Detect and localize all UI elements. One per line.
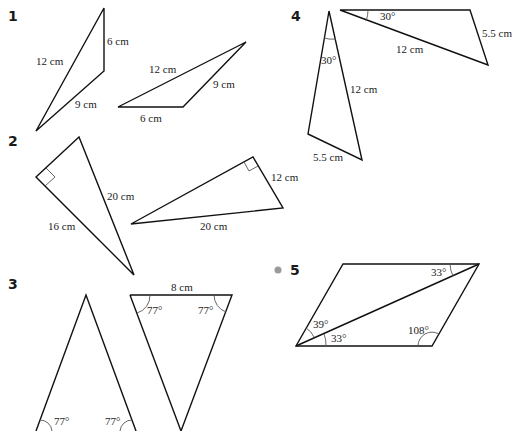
angle-label: 77° (198, 304, 213, 316)
bullet-dot (275, 267, 282, 274)
question-5: 5 33° 39° 33° 108° (275, 262, 480, 346)
side-label: 9 cm (75, 98, 97, 110)
triangle-shape (130, 295, 232, 431)
side-label: 5.5 cm (482, 27, 512, 39)
angle-label: 33° (331, 332, 346, 344)
question-number: 2 (8, 133, 18, 149)
q3-triangle-b: 8 cm 77° 77° (130, 281, 232, 431)
angle-arc (324, 38, 336, 39)
q2-triangle-b: 12 cm 20 cm (131, 157, 299, 232)
q4-triangle-a: 30° 12 cm 5.5 cm (340, 10, 512, 65)
side-label: 12 cm (350, 83, 378, 95)
q1-triangle-a: 6 cm 12 cm 9 cm (36, 8, 129, 131)
question-number: 5 (290, 262, 300, 278)
question-4: 4 30° 12 cm 5.5 cm 30° 12 cm 5.5 cm (291, 8, 512, 163)
angle-arc (450, 264, 453, 276)
angle-arc (324, 334, 326, 346)
q5-parallelogram: 33° 39° 33° 108° (296, 264, 479, 346)
q4-triangle-b: 30° 12 cm 5.5 cm (308, 11, 378, 163)
angle-label: 108° (408, 324, 429, 336)
triangle-shape (118, 42, 246, 107)
question-number: 1 (8, 8, 18, 24)
q3-triangle-a: 77° 77° (36, 295, 136, 431)
q2-triangle-a: 20 cm 16 cm (36, 137, 135, 275)
side-label: 6 cm (107, 35, 129, 47)
angle-label: 33° (431, 266, 446, 278)
triangle-shape (131, 157, 283, 224)
diagonal-line (296, 264, 479, 346)
angle-label: 30° (321, 54, 336, 66)
side-label: 20 cm (107, 190, 135, 202)
side-label: 20 cm (200, 220, 228, 232)
angle-label: 77° (54, 415, 69, 427)
side-label: 12 cm (396, 43, 424, 55)
angle-arc (366, 10, 368, 21)
angle-label: 39° (313, 318, 328, 330)
angle-label: 30° (380, 10, 395, 22)
triangle-shape (36, 137, 134, 275)
question-2: 2 20 cm 16 cm 12 cm 20 cm (8, 133, 299, 275)
question-number: 4 (291, 8, 301, 24)
triangle-shape (36, 8, 104, 131)
triangle-shape (340, 10, 488, 65)
angle-arc (120, 420, 132, 431)
side-label: 12 cm (271, 171, 299, 183)
question-1: 1 6 cm 12 cm 9 cm 12 cm 9 cm 6 cm (8, 8, 246, 131)
side-label: 12 cm (149, 63, 177, 75)
side-label: 6 cm (140, 112, 162, 124)
side-label: 9 cm (213, 78, 235, 90)
side-label: 8 cm (171, 281, 193, 293)
question-3: 3 77° 77° 8 cm 77° 77° (8, 276, 232, 431)
question-number: 3 (8, 276, 18, 292)
angle-arc (40, 420, 52, 431)
side-label: 12 cm (36, 55, 64, 67)
angle-label: 77° (147, 304, 162, 316)
right-angle-mark (45, 168, 55, 186)
diagram-canvas: 1 6 cm 12 cm 9 cm 12 cm 9 cm 6 cm 2 20 c… (0, 0, 515, 431)
angle-label: 77° (105, 415, 120, 427)
angle-arc (214, 295, 226, 312)
right-angle-mark (244, 162, 258, 171)
triangle-shape (36, 295, 136, 431)
side-label: 5.5 cm (313, 151, 343, 163)
q1-triangle-b: 12 cm 9 cm 6 cm (118, 42, 246, 124)
side-label: 16 cm (48, 220, 76, 232)
